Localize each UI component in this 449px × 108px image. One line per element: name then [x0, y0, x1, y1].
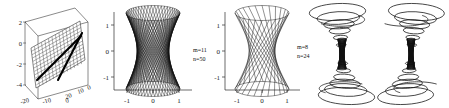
- panel-5-svg: [374, 0, 449, 108]
- ytick-label: 1: [217, 22, 221, 30]
- panel-vortex-left: [305, 0, 380, 108]
- depthtick-label: 0: [86, 83, 91, 91]
- hyperboloid-rulings-double: [126, 6, 180, 97]
- figure-container: 2 0 -2 -4 -20 -10 0 20 10 0: [0, 0, 449, 108]
- ytick-label: 0: [19, 40, 22, 47]
- xtick-label: -1: [124, 97, 130, 105]
- ytick-label: -4: [17, 81, 23, 88]
- panel-vortex-right: [374, 0, 449, 108]
- panel-1-y-tickmarks: [23, 22, 26, 85]
- annotation-n: n=50: [193, 56, 205, 62]
- ytick-label: 0: [106, 48, 110, 56]
- vortex-curves-left: [309, 2, 375, 106]
- ytick-label: -1: [103, 74, 109, 82]
- panel-1-x-ticks: -20 -10 0: [20, 96, 70, 105]
- ytick-label: 0: [217, 48, 221, 56]
- vortex-curves-right: [377, 2, 445, 106]
- ytick-label: -1: [214, 74, 220, 82]
- panel-3-axes: [222, 12, 300, 93]
- panel-hyperboloid-single: 1 0 -1 -1 0 1 m=8 n=24: [205, 0, 313, 108]
- panel-2-svg: 1 0 -1 -1 0 1 m=11 n=50: [92, 0, 210, 108]
- xtick-label: 1: [285, 97, 289, 105]
- panel-1-svg: 2 0 -2 -4 -20 -10 0 20 10 0: [0, 0, 92, 108]
- xtick-label: -1: [234, 97, 240, 105]
- ytick-label: 1: [106, 22, 110, 30]
- depthtick-label: 10: [76, 86, 84, 95]
- xtick-label: 1: [177, 97, 181, 105]
- panel-3-svg: 1 0 -1 -1 0 1 m=8 n=24: [205, 0, 313, 108]
- xtick-label: -20: [20, 96, 30, 105]
- ytick-label: -2: [17, 61, 22, 68]
- xtick-label: 0: [260, 97, 264, 105]
- panel-4-svg: [305, 0, 380, 108]
- ytick-label: 2: [19, 19, 22, 26]
- panel-1-depth-ticks: 20 10 0: [64, 83, 91, 100]
- panel-hyperboloid-double: 1 0 -1 -1 0 1 m=11 n=50: [92, 0, 210, 108]
- xtick-label: -10: [42, 96, 52, 105]
- xtick-label: 0: [151, 97, 155, 105]
- panel-1-y-ticks: 2 0 -2 -4: [17, 19, 23, 88]
- hyperboloid-rulings-single: [235, 6, 289, 97]
- panel-3d-plane: 2 0 -2 -4 -20 -10 0 20 10 0: [0, 0, 92, 108]
- depthtick-label: 20: [64, 91, 72, 100]
